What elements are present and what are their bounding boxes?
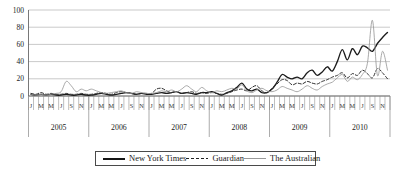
month-tick-label: N [260,102,265,109]
solid-line-sample [103,158,125,160]
y-axis-tick-label: 40 [17,57,25,66]
month-tick-label: J [271,102,274,109]
month-tick-label: M [340,102,346,109]
month-tick-label: J [60,102,63,109]
month-tick-label: S [250,102,254,109]
year-label: 2010 [352,123,368,132]
month-tick-label: M [350,102,356,109]
month-tick-label: J [241,102,244,109]
y-axis-tick-label: 100 [13,6,25,15]
month-tick-label: J [30,102,33,109]
month-tick-label: M [48,102,54,109]
month-tick-label: M [289,102,295,109]
series-line-the-australian [31,20,388,95]
month-tick-label: J [150,102,153,109]
month-tick-label: N [199,102,204,109]
month-tick-label: M [99,102,105,109]
year-label: 2009 [292,123,308,132]
month-tick-label: S [190,102,194,109]
y-axis-tick-label: 20 [17,74,25,83]
month-tick-label: M [279,102,285,109]
legend-item-new-york-times: New York Times [103,154,186,163]
line-chart-figure: 020406080100JMMJSNJMMJSNJMMJSNJMMJSNJMMJ… [0,0,397,179]
y-axis-tick-label: 60 [17,40,25,49]
month-tick-label: N [139,102,144,109]
month-tick-label: J [301,102,304,109]
year-label: 2006 [111,123,127,132]
month-tick-label: M [169,102,175,109]
month-tick-label: J [211,102,214,109]
series-line-new-york-times [31,32,388,95]
month-tick-label: M [38,102,44,109]
year-label: 2008 [232,123,248,132]
month-tick-label: S [69,102,73,109]
time-series-plot: 020406080100JMMJSNJMMJSNJMMJSNJMMJSNJMMJ… [0,0,397,150]
month-tick-label: M [219,102,225,109]
legend-label: Guardian [212,154,244,163]
month-tick-label: N [79,102,84,109]
dashed-line-sample [186,158,208,159]
month-tick-label: S [371,102,375,109]
legend-label: The Australian [270,154,320,163]
month-tick-label: N [380,102,385,109]
month-tick-label: J [361,102,364,109]
month-tick-label: J [120,102,123,109]
y-axis-tick-label: 80 [17,23,25,32]
month-tick-label: M [159,102,165,109]
month-tick-label: S [310,102,314,109]
legend-item-the-australian: The Australian [244,154,320,163]
month-tick-label: M [229,102,235,109]
month-tick-label: S [130,102,134,109]
month-tick-label: J [180,102,183,109]
year-label: 2005 [51,123,67,132]
year-label: 2007 [171,123,187,132]
month-tick-label: N [320,102,325,109]
legend-label: New York Times [129,154,186,163]
y-axis-tick-label: 0 [20,92,24,101]
legend-item-guardian: Guardian [186,154,244,163]
month-tick-label: M [109,102,115,109]
thin-line-sample [244,158,266,159]
month-tick-label: J [331,102,334,109]
chart-legend: New York Times Guardian The Australian [95,151,316,166]
month-tick-label: J [90,102,93,109]
